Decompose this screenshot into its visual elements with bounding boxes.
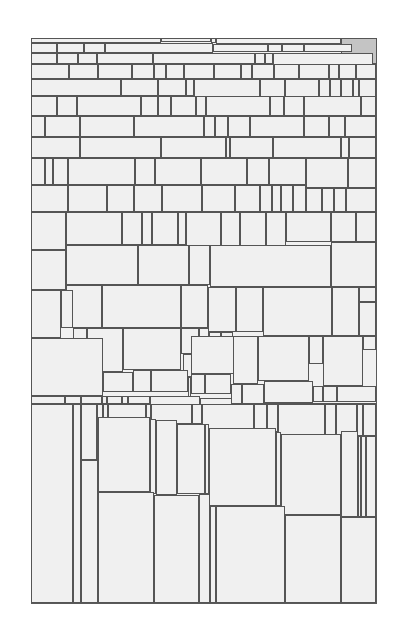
tile-cell (98, 64, 132, 79)
tile-cell (181, 285, 208, 328)
tile-cell (313, 386, 323, 402)
tile-cell (304, 96, 361, 116)
tile-cell (31, 43, 57, 53)
tile-cell (281, 185, 293, 212)
tile-cell (240, 212, 266, 246)
tile-cell (233, 336, 258, 384)
tile-cell (132, 64, 154, 79)
tile-cell (341, 431, 358, 517)
tile-cell (199, 494, 210, 603)
tile-cell (31, 116, 45, 137)
tile-cell (270, 96, 284, 116)
tile-cell (206, 96, 270, 116)
tile-cell (359, 302, 376, 336)
tile-cell (177, 424, 205, 494)
tile-cell (184, 64, 214, 79)
tile-cell (252, 64, 274, 79)
tile-cell (337, 386, 376, 402)
tile-cell (134, 185, 162, 212)
tile-cell (228, 116, 250, 137)
tile-cell (274, 64, 299, 79)
tile-cell (325, 404, 336, 437)
tile-cell (107, 396, 122, 404)
tile-cell (258, 336, 309, 381)
tile-cell (31, 137, 80, 158)
tile-cell (319, 79, 330, 97)
tile-cell (191, 374, 205, 394)
tile-cell (161, 38, 211, 42)
tile-cell (155, 158, 201, 185)
tile-cell (123, 328, 181, 370)
tile-cell (31, 53, 57, 64)
tile-cell (45, 158, 53, 185)
tile-cell (269, 158, 306, 185)
tile-cell (31, 185, 68, 212)
tile-cell (366, 436, 376, 517)
tile-cell (339, 64, 356, 79)
tile-cell (241, 64, 252, 79)
tile-cell (84, 43, 105, 53)
tile-cell (45, 116, 80, 137)
tile-cell (66, 212, 122, 245)
tile-cell (332, 287, 359, 336)
tile-cell (31, 64, 69, 79)
tile-cell (331, 212, 356, 242)
tile-cell (341, 79, 353, 97)
tile-cell (349, 137, 376, 158)
tile-cell (359, 79, 376, 97)
tile-cell (286, 212, 331, 242)
tile-cell (214, 64, 241, 79)
tile-cell (329, 64, 339, 79)
tile-cell (97, 53, 153, 64)
tile-cell (178, 212, 186, 245)
tile-cell (81, 460, 98, 603)
tile-cell (81, 396, 102, 404)
tile-cell (98, 492, 154, 603)
tile-cell (231, 384, 242, 404)
tile-cell (161, 137, 226, 158)
tile-cell (356, 64, 376, 79)
tile-cell (299, 64, 329, 79)
tile-cell (196, 96, 206, 116)
tile-cell (309, 336, 323, 364)
tile-cell (31, 250, 66, 290)
tile-cell (264, 381, 313, 403)
tile-cell (153, 53, 255, 64)
tile-cell (250, 116, 304, 137)
tile-cell (68, 185, 107, 212)
rectangle-tiling-diagram (0, 0, 405, 640)
tile-cell (81, 404, 97, 460)
tile-cell (102, 285, 181, 328)
tile-cell (105, 43, 213, 53)
tile-cell (135, 158, 155, 185)
tile-cell (80, 116, 134, 137)
tile-cell (361, 96, 376, 116)
tile-cell (209, 428, 276, 506)
tile-cell (293, 185, 306, 212)
tile-cell (103, 372, 133, 392)
tile-cell (329, 116, 345, 137)
tile-cell (202, 185, 235, 212)
tile-cell (141, 96, 158, 116)
tile-cell (230, 137, 273, 158)
tile-cell (154, 495, 199, 603)
tile-cell (66, 245, 138, 285)
tile-cell (216, 506, 285, 603)
tile-cell (213, 44, 268, 52)
tile-cell (57, 43, 84, 53)
tile-cell (331, 242, 376, 287)
tile-cell (142, 212, 152, 245)
tile-cell (221, 212, 240, 246)
tile-cell (263, 287, 332, 336)
tile-cell (273, 137, 341, 158)
tile-cell (158, 79, 186, 96)
tile-cell (306, 188, 322, 212)
tile-cell (151, 370, 188, 392)
tile-cell (171, 96, 196, 116)
tile-cell (208, 287, 236, 332)
tile-cell (162, 185, 202, 212)
tile-cell (268, 44, 282, 52)
tile-cell (122, 212, 142, 245)
tile-cell (247, 158, 269, 185)
tile-cell (265, 53, 273, 64)
